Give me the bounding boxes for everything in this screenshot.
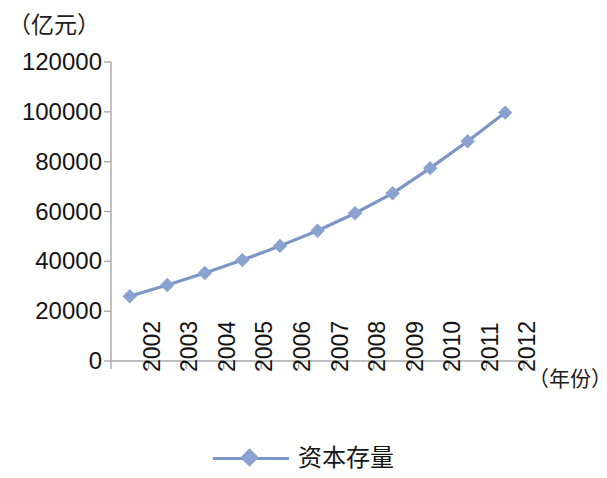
chart-legend: 资本存量 [0,446,607,470]
x-axis-tick-label: 2007 [329,321,352,372]
x-axis-tick-label: 2004 [216,321,239,372]
y-axis-tick-label: 60000 [35,200,102,224]
x-axis-tick-label: 2009 [404,321,427,372]
x-axis-tick-label: 2011 [479,323,502,372]
data-point-marker [348,206,362,220]
chart-figure: （亿元） 020000400006000080000100000120000 2… [0,0,607,478]
data-point-marker [198,266,212,280]
data-point-marker [235,253,249,267]
series-line-capital-stock [130,113,505,297]
data-point-marker [273,239,287,253]
x-axis-tick-label: 2002 [141,321,164,372]
x-axis-tick-label: 2005 [253,321,276,372]
x-axis-tick-label: 2008 [366,321,389,372]
y-axis-tick-labels: 020000400006000080000100000120000 [0,0,102,478]
legend-entry-label: 资本存量 [298,446,394,470]
data-point-marker [123,289,137,303]
legend-line-marker-icon [213,449,289,467]
y-axis-tick-label: 40000 [35,249,102,273]
x-axis-tick-label: 2003 [178,321,201,372]
x-axis-tick-label: 2006 [291,321,314,372]
y-axis-tick-label: 80000 [35,150,102,174]
y-axis-tick-label: 100000 [22,100,102,124]
data-point-marker [310,223,324,237]
y-axis-tick-label: 20000 [35,299,102,323]
data-point-marker [160,278,174,292]
x-axis-tick-label: 2010 [441,321,464,372]
y-axis-tick-label: 0 [89,349,102,373]
x-axis-unit-label: （年份） [528,362,607,392]
y-axis-tick-label: 120000 [22,50,102,74]
